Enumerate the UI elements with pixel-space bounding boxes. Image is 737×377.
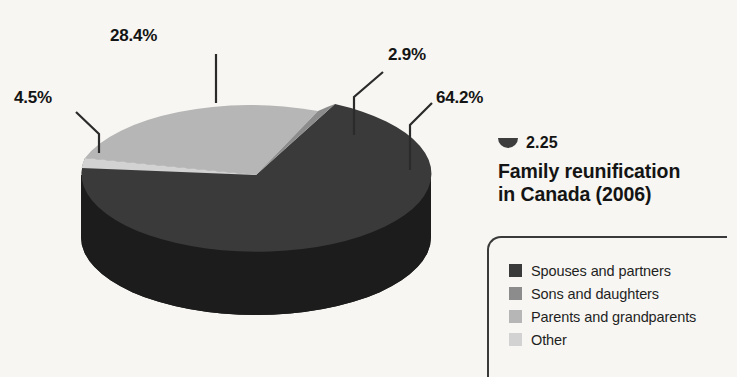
callout-label-642: 64.2% [436, 88, 483, 108]
legend-item-label: Parents and grandparents [531, 309, 696, 325]
legend-item-label: Spouses and partners [531, 263, 671, 279]
pie-chart: 28.4% 4.5% 2.9% 64.2% [0, 0, 470, 375]
chart-title-line-1: Family reunification [498, 160, 730, 183]
legend-item-label: Other [531, 332, 567, 348]
callout-label-29: 2.9% [388, 45, 426, 65]
legend-item-parents-and-grandparents[interactable]: Parents and grandparents [509, 306, 696, 327]
callout-label-45: 4.5% [14, 88, 52, 108]
callout-label-284: 28.4% [110, 26, 157, 46]
legend-item-spouses-and-partners[interactable]: Spouses and partners [509, 260, 696, 281]
legend-swatch-icon [509, 310, 522, 323]
page-title: Family reunification in Canada (2006) [498, 160, 730, 207]
figure-panel: 2.25 Family reunification in Canada (200… [487, 132, 737, 375]
legend-item-sons-and-daughters[interactable]: Sons and daughters [509, 283, 696, 304]
chart-title-line-2: in Canada (2006) [498, 183, 730, 206]
legend: Spouses and partners Sons and daughters … [487, 236, 727, 377]
leader-line-45 [76, 112, 99, 153]
legend-item-label: Sons and daughters [531, 286, 659, 302]
half-disc-icon [498, 138, 518, 148]
legend-swatch-icon [509, 287, 522, 300]
legend-list: Spouses and partners Sons and daughters … [509, 260, 696, 350]
figure-number-line: 2.25 [498, 132, 737, 154]
legend-swatch-icon [509, 264, 522, 277]
legend-item-other[interactable]: Other [509, 329, 696, 350]
legend-swatch-icon [509, 333, 522, 346]
figure-number: 2.25 [526, 134, 558, 152]
